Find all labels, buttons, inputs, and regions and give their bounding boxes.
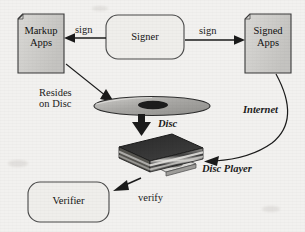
edge-signer-to-signed-apps [185, 35, 245, 44]
edge-label-verify: verify [138, 192, 163, 203]
node-label-signer: Signer [106, 31, 184, 43]
node-label-markup-apps: Markup Apps [18, 25, 64, 50]
node-label-disc-player: Disc Player [202, 163, 252, 174]
edge-signer-to-disc [66, 64, 114, 102]
edge-disc-to-player [132, 114, 151, 136]
diagram-canvas: Markup Apps Signer Signed Apps Verifier … [0, 0, 305, 232]
edge-label-disc: Disc [158, 118, 177, 129]
edge-label-internet: Internet [243, 104, 278, 115]
node-label-verifier: Verifier [28, 195, 109, 207]
node-label-signed-apps: Signed Apps [245, 25, 291, 50]
edge-internet [204, 74, 288, 166]
edge-label-resides-on-disc: Resides on Disc [39, 87, 72, 109]
edge-player-to-verifier [113, 178, 141, 191]
node-disc-player[interactable] [119, 134, 203, 176]
edge-label-sign-right: sign [199, 25, 217, 36]
edge-label-sign-left: sign [75, 24, 93, 35]
node-disc[interactable] [94, 97, 210, 116]
